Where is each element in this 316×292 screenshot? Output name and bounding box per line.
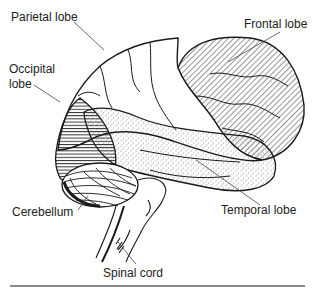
brain-illustration: [0, 0, 316, 292]
cerebellum-region: [62, 163, 138, 207]
label-frontal-lobe: Frontal lobe: [244, 17, 307, 31]
leader-occipital: [34, 85, 60, 102]
label-temporal-lobe: Temporal lobe: [221, 203, 296, 217]
label-cerebellum: Cerebellum: [12, 205, 73, 219]
leader-parietal: [74, 22, 104, 50]
label-occipital-lobe-line1: Occipital: [9, 62, 55, 76]
label-parietal-lobe: Parietal lobe: [11, 10, 78, 24]
label-occipital-lobe-line2: lobe: [9, 77, 32, 91]
bottom-rule-divider: [10, 285, 305, 287]
label-spinal-cord: Spinal cord: [103, 266, 163, 280]
